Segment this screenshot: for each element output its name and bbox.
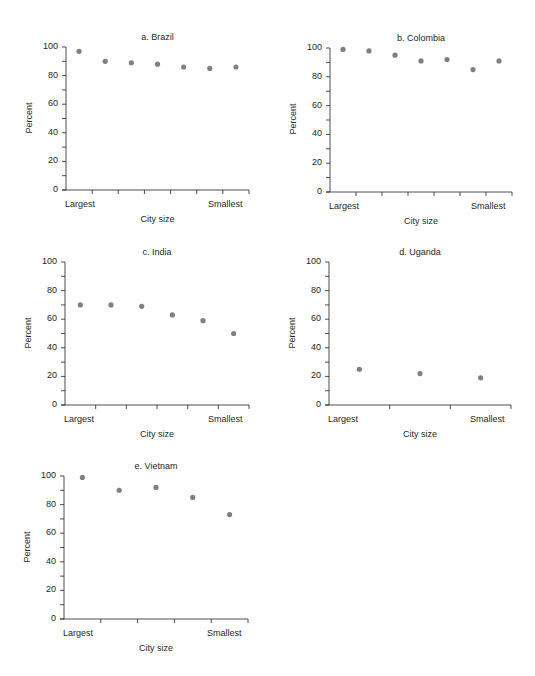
x-end-label-smallest: Smallest [207, 628, 242, 638]
y-tick-label: 0 [36, 613, 56, 623]
y-tick-label: 20 [36, 584, 56, 594]
y-tick-label: 40 [36, 556, 56, 566]
chart-title: e. Vietnam [96, 461, 216, 471]
plot-area [0, 0, 535, 676]
x-axis-label: City size [116, 643, 196, 653]
data-point [190, 495, 195, 500]
y-tick-label: 60 [36, 527, 56, 537]
data-point [227, 512, 232, 517]
y-tick-label: 80 [36, 499, 56, 509]
data-point [80, 475, 85, 480]
data-point [153, 485, 158, 490]
data-point [117, 488, 122, 493]
y-axis-label: Percent [22, 522, 32, 572]
x-end-label-largest: Largest [63, 628, 93, 638]
y-tick-label: 100 [36, 470, 56, 480]
